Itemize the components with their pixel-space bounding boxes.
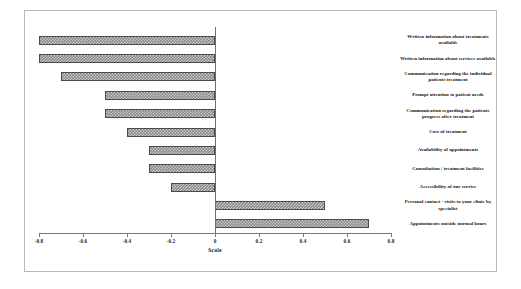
x-tick-label: -0.6 — [79, 238, 88, 244]
x-tick-label: 0.8 — [388, 238, 395, 244]
category-label-list: Written information about treatments ava… — [400, 31, 496, 233]
bar-7 — [149, 164, 215, 173]
bar-3 — [105, 91, 215, 100]
x-tick-mark — [303, 233, 304, 237]
bar-5 — [127, 128, 215, 137]
x-axis-title: Scale — [39, 247, 391, 253]
x-tick-label: 0.2 — [256, 238, 263, 244]
x-tick-label: 0.6 — [344, 238, 351, 244]
x-tick-mark — [127, 233, 128, 237]
bar-0 — [39, 36, 215, 45]
x-tick-mark — [259, 233, 260, 237]
x-tick-label: 0.4 — [300, 238, 307, 244]
category-label: Communication regarding the patients pro… — [400, 108, 496, 120]
chart-frame: -0.8-0.6-0.4-0.200.20.40.60.8 Scale Writ… — [24, 10, 497, 272]
x-tick-mark — [39, 233, 40, 237]
bar-4 — [105, 109, 215, 118]
bar-8 — [171, 183, 215, 192]
category-label: Personal contact - visits to your clinic… — [400, 199, 496, 211]
bar-1 — [39, 54, 215, 63]
x-tick-label: -0.8 — [35, 238, 44, 244]
x-tick-mark — [171, 233, 172, 237]
x-tick-label: 0 — [214, 238, 217, 244]
x-tick-label: -0.2 — [167, 238, 176, 244]
category-label: Accessibility of our service — [400, 184, 496, 190]
x-tick-mark — [83, 233, 84, 237]
category-label: Written information about services avail… — [400, 56, 496, 62]
x-tick-mark — [347, 233, 348, 237]
category-label: Written information about treatments ava… — [400, 34, 496, 46]
x-tick-label: -0.4 — [123, 238, 132, 244]
bar-6 — [149, 146, 215, 155]
x-tick-mark — [215, 233, 216, 237]
x-axis-line: -0.8-0.6-0.4-0.200.20.40.60.8 — [39, 233, 391, 234]
x-tick-mark — [391, 233, 392, 237]
category-label: Prompt attention to patient needs — [400, 92, 496, 98]
category-label: Consultation / treatment facilities — [400, 166, 496, 172]
category-label: Communication regarding the individual p… — [400, 71, 496, 83]
category-label: Availability of appointments — [400, 147, 496, 153]
bar-2 — [61, 72, 215, 81]
category-label: Cost of treatment — [400, 129, 496, 135]
bar-10 — [215, 219, 369, 228]
category-label: Appointments outside normal hours — [400, 221, 496, 227]
bar-9 — [215, 201, 325, 210]
zero-axis-line — [215, 27, 216, 233]
